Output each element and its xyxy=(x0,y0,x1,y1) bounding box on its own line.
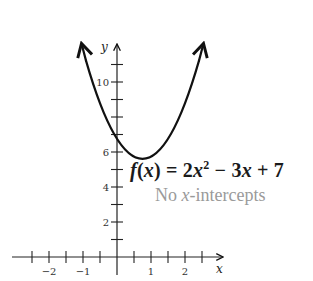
x-intercepts-note: No x-intercepts xyxy=(155,185,265,206)
y-axis-label: y xyxy=(100,40,108,54)
y-tick-label-10: 10 xyxy=(96,77,109,88)
curve-right-end xyxy=(199,44,204,61)
quadratic-curve xyxy=(86,61,199,159)
y-tick-label-4: 4 xyxy=(103,182,109,193)
formula-x1: x xyxy=(193,159,203,181)
y-tick-label-6: 6 xyxy=(103,147,109,158)
subtitle-var: x xyxy=(182,185,190,205)
x-tick-label-neg2: −2 xyxy=(42,266,57,277)
graph-canvas: −2 −1 1 2 2 4 6 10 x y xyxy=(0,0,313,281)
x-axis-label: x xyxy=(216,262,223,276)
formula-var: x xyxy=(144,159,154,181)
formula-f: f xyxy=(130,159,137,181)
y-tick-label-2: 2 xyxy=(103,217,109,228)
subtitle-pre: No xyxy=(155,185,182,205)
formula-mid: − 3 xyxy=(209,159,241,181)
x-tick-label-2: 2 xyxy=(182,266,188,277)
subtitle-post: -intercepts xyxy=(190,185,266,205)
curve-left-end xyxy=(82,44,87,61)
formula-close: ) = 2 xyxy=(154,159,193,181)
x-tick-label-1: 1 xyxy=(148,266,154,277)
x-tick-label-neg1: −1 xyxy=(76,266,91,277)
function-formula: f(x) = 2x2 − 3x + 7 xyxy=(130,158,284,182)
formula-x2: x xyxy=(242,159,252,181)
formula-end: + 7 xyxy=(252,159,284,181)
formula-open: ( xyxy=(137,159,144,181)
